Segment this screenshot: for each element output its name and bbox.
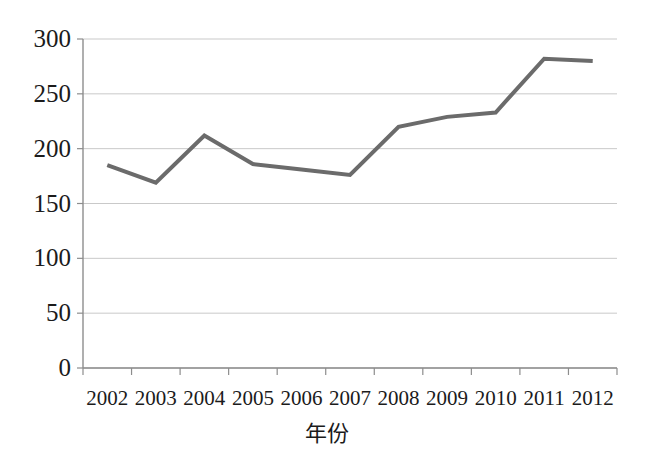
- y-axis-tick-label: 50: [6, 300, 71, 325]
- x-axis-tick-label: 2006: [277, 388, 326, 409]
- y-axis-tick-label: 150: [6, 191, 71, 216]
- x-axis-tick-label: 2010: [471, 388, 520, 409]
- x-axis-tick-label: 2008: [374, 388, 423, 409]
- x-axis-tick-label: 2002: [83, 388, 132, 409]
- x-axis-tick-label: 2004: [180, 388, 229, 409]
- x-axis-ticks: [83, 368, 617, 375]
- y-axis-tick-label: 100: [6, 245, 71, 270]
- x-axis-title: 年份: [0, 422, 653, 446]
- y-axis-tick-label: 0: [6, 355, 71, 380]
- x-axis-tick-label: 2003: [132, 388, 181, 409]
- y-axis-ticks: [77, 39, 83, 368]
- data-series-line: [107, 59, 592, 183]
- gridlines: [83, 39, 617, 368]
- y-axis-tick-label: 200: [6, 136, 71, 161]
- y-axis-tick-label: 250: [6, 81, 71, 106]
- y-axis-tick-label: 300: [6, 26, 71, 51]
- line-chart: 050100150200250300 200220032004200520062…: [0, 0, 653, 464]
- x-axis-tick-label: 2012: [568, 388, 617, 409]
- x-axis-tick-label: 2005: [229, 388, 278, 409]
- x-axis-tick-label: 2009: [423, 388, 472, 409]
- x-axis-tick-label: 2011: [520, 388, 569, 409]
- x-axis-tick-label: 2007: [326, 388, 375, 409]
